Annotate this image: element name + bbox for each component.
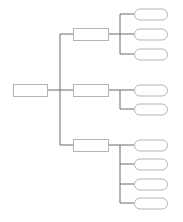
leaf-node: [135, 9, 168, 20]
leaf-node: [135, 179, 168, 190]
root-node: [14, 85, 48, 97]
leaf-node: [135, 140, 168, 151]
level1-node: [74, 140, 109, 152]
leaf-node: [135, 29, 168, 40]
leaf-node: [135, 104, 168, 115]
level1-node: [74, 85, 109, 97]
level1-node: [74, 29, 109, 41]
tree-diagram: [0, 0, 183, 222]
leaf-node: [135, 49, 168, 60]
leaf-node: [135, 159, 168, 170]
leaf-node: [135, 85, 168, 96]
leaf-node: [135, 198, 168, 209]
